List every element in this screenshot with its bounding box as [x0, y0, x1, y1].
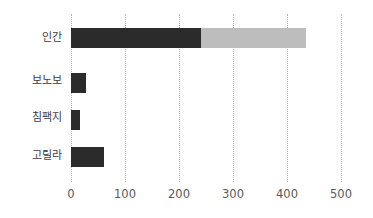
- bar-segment-dark: [71, 147, 104, 167]
- x-tick-label-4: 400: [267, 188, 307, 201]
- x-tick-label-0: 0: [51, 188, 91, 201]
- bar-segment-dark: [71, 28, 201, 48]
- x-tick-label-3: 300: [213, 188, 253, 201]
- bar-row: [71, 110, 80, 130]
- bar-segment-dark: [71, 73, 86, 93]
- bar-row: [71, 147, 104, 167]
- category-label-3: 고릴라: [2, 150, 62, 162]
- x-tick-label-1: 100: [105, 188, 145, 201]
- x-tick-label-2: 200: [159, 188, 199, 201]
- bar-segment-light: [201, 28, 306, 48]
- bar-segment-dark: [71, 110, 80, 130]
- bars-layer: [71, 14, 341, 182]
- bar-row: [71, 73, 86, 93]
- bar-row: [71, 28, 306, 48]
- x-tick-label-5: 500: [321, 188, 361, 201]
- plot-area: [71, 14, 341, 182]
- category-label-1: 보노보: [2, 75, 62, 87]
- category-label-0: 인간: [2, 32, 62, 44]
- bar-chart: 인간 보노보 침팩지 고릴라: [0, 0, 373, 218]
- category-label-2: 침팩지: [2, 112, 62, 124]
- gridline-500: [341, 14, 342, 182]
